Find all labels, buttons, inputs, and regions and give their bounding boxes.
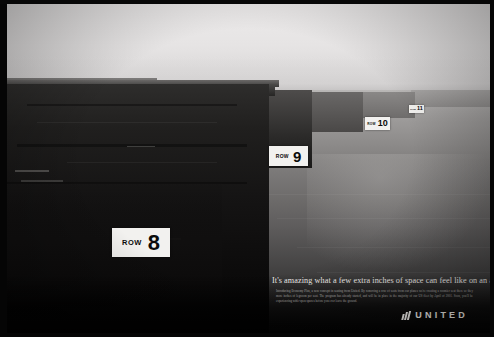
row-marker-number: 11	[417, 106, 423, 112]
row-marker-label: ROW	[122, 238, 142, 247]
frame-bottom-edge	[0, 333, 494, 337]
headline: It's amazing what a few extra inches of …	[272, 276, 477, 286]
mid-headland	[359, 92, 415, 118]
rock-ledge-highlight	[127, 146, 155, 147]
near-headland	[307, 92, 363, 132]
row-marker-number: 9	[293, 149, 301, 164]
rock-stratum	[67, 162, 217, 163]
rock-ledge-highlight	[15, 170, 49, 172]
sea-ripple	[277, 218, 490, 219]
row-marker-11[interactable]: ROW 11	[409, 105, 424, 113]
row-marker-10[interactable]: ROW 10	[365, 117, 390, 130]
body-copy: Introducing Economy Plus, a new concept …	[272, 289, 477, 304]
row-marker-9[interactable]: ROW 9	[269, 146, 308, 166]
frame-left-edge	[0, 0, 7, 337]
sea-light-sheen	[307, 154, 490, 274]
sea-ripple	[317, 272, 490, 273]
row-marker-number: 10	[378, 119, 388, 128]
rock-ledge-highlight	[21, 180, 63, 182]
united-tulip-icon	[402, 311, 411, 320]
cliff-photograph: ROW 8 ROW 9 ROW 10 ROW 11 It's amazing w…	[7, 4, 490, 333]
copy-block: It's amazing what a few extra inches of …	[272, 276, 477, 304]
row-marker-label: ROW	[410, 108, 416, 110]
row-marker-label: ROW	[367, 122, 375, 126]
united-print-advertisement: ROW 8 ROW 9 ROW 10 ROW 11 It's amazing w…	[0, 0, 494, 337]
frame-right-edge	[490, 0, 494, 337]
row-marker-label: ROW	[276, 153, 289, 159]
frame-top-edge	[0, 0, 494, 4]
row-marker-number: 8	[148, 232, 160, 254]
rock-stratum	[37, 122, 217, 123]
row-marker-8[interactable]: ROW 8	[112, 228, 170, 257]
sea-ripple	[297, 247, 490, 248]
united-logo: UNITED	[402, 310, 468, 320]
sea-ripple	[257, 194, 490, 195]
rock-stratum	[27, 104, 237, 106]
united-wordmark: UNITED	[415, 310, 468, 320]
